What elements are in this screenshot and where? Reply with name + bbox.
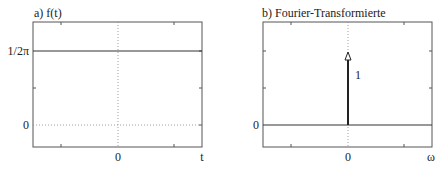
plot-b-xlabel-zero: 0 [345, 150, 351, 164]
plot-b-xaxis-label: ω [427, 150, 435, 164]
plot-a-title: a) f(t) [34, 6, 62, 20]
plot-a: a) f(t) 1/2π 0 0 t [8, 6, 205, 164]
plot-a-frame [33, 22, 202, 147]
plot-a-ylabel-zero: 0 [23, 118, 29, 132]
plot-b-title: b) Fourier-Transformierte [262, 6, 386, 20]
impulse-label: 1 [355, 68, 361, 82]
arrow-head-icon [345, 52, 351, 60]
plot-a-xlabel-zero: 0 [115, 150, 121, 164]
plot-b-ylabel-zero: 0 [253, 118, 259, 132]
figure: a) f(t) 1/2π 0 0 t b) Fourier-Transformi… [0, 0, 444, 170]
plot-b: b) Fourier-Transformierte 1 0 0 ω [253, 6, 435, 164]
plot-a-xaxis-label: t [200, 150, 204, 164]
plot-a-ylabel-top: 1/2π [8, 44, 29, 58]
